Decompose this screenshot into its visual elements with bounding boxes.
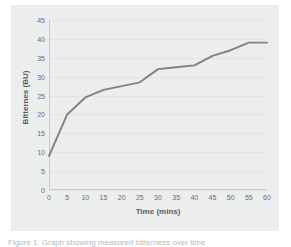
x-axis-tick-label: 25 <box>136 194 144 201</box>
x-axis-tick-label: 15 <box>100 194 108 201</box>
x-axis-tick-label: 30 <box>154 194 162 201</box>
y-axis-tick-label: 45 <box>37 17 45 24</box>
x-axis-tick-label: 40 <box>190 194 198 201</box>
y-axis-tick-label: 20 <box>37 111 45 118</box>
x-axis-tick-label: 55 <box>245 194 253 201</box>
gridline <box>49 190 267 191</box>
x-axis-tick-labels: 051015202530354045505560 <box>49 194 267 206</box>
x-axis-tick-label: 10 <box>81 194 89 201</box>
y-axis-tick-label: 0 <box>41 187 45 194</box>
x-axis-tick-label: 5 <box>65 194 69 201</box>
x-axis-tick-label: 0 <box>47 194 51 201</box>
x-axis-tick-label: 35 <box>172 194 180 201</box>
y-axis-title: Bitternes (BU) <box>21 38 30 158</box>
x-axis-tick-label: 20 <box>118 194 126 201</box>
x-axis-tick-label: 45 <box>209 194 217 201</box>
plot-area <box>49 20 267 190</box>
chart-card: 051015202530354045 051015202530354045505… <box>11 5 279 231</box>
figure-caption: Figure 1: Graph showing measured bittern… <box>8 238 283 247</box>
x-axis-tick-label: 60 <box>263 194 271 201</box>
y-axis-tick-label: 5 <box>41 168 45 175</box>
y-axis-tick-label: 25 <box>37 92 45 99</box>
x-axis-title: Time (mins) <box>49 207 267 216</box>
series-line-bitterness <box>49 20 267 190</box>
y-axis-tick-label: 10 <box>37 149 45 156</box>
y-axis-tick-label: 40 <box>37 35 45 42</box>
y-axis-tick-label: 30 <box>37 73 45 80</box>
y-axis-tick-labels: 051015202530354045 <box>29 20 45 190</box>
x-axis-tick-label: 50 <box>227 194 235 201</box>
y-axis-tick-label: 15 <box>37 130 45 137</box>
y-axis-tick-label: 35 <box>37 54 45 61</box>
